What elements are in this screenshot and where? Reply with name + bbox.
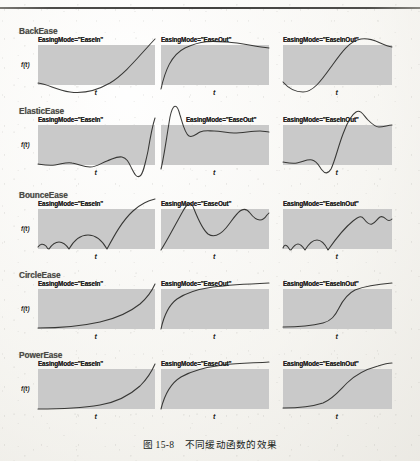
easing-curve-path [38, 364, 155, 409]
easing-curve-svg [283, 125, 392, 165]
easing-curve-svg [283, 209, 392, 249]
easing-group-title: BounceEase [19, 190, 68, 200]
easing-curve-path [161, 283, 269, 329]
x-axis-label: t [213, 88, 215, 97]
easing-plot [283, 209, 392, 249]
easing-curve-path [283, 363, 392, 408]
easing-curve-path [283, 283, 392, 327]
x-axis-label: t [95, 252, 97, 261]
easing-plot [161, 125, 269, 165]
x-axis-label: t [95, 412, 97, 421]
easing-plot [38, 209, 155, 249]
x-axis-label: t [336, 88, 338, 97]
x-axis-label: t [95, 168, 97, 177]
easing-mode-label: EasingMode="EaseIn" [38, 36, 103, 43]
x-axis-label: t [336, 252, 338, 261]
x-axis-label: t [213, 168, 215, 177]
x-axis-label: t [213, 332, 215, 341]
y-axis-label: f(t) [21, 385, 30, 392]
easing-curve-svg [161, 369, 269, 409]
easing-curve-svg [161, 209, 269, 249]
easing-curve-path [161, 41, 269, 89]
easing-mode-label: EasingMode="EaseOut" [161, 200, 231, 207]
easing-plot [283, 289, 392, 329]
easing-curve-svg [283, 369, 392, 409]
easing-mode-label: EasingMode="EaseInOut" [283, 280, 359, 287]
x-axis-label: t [213, 412, 215, 421]
x-axis-label: t [95, 332, 97, 341]
easing-curve-svg [161, 289, 269, 329]
easing-group-title: ElasticEase [19, 106, 64, 116]
easing-plot [38, 125, 155, 165]
y-axis-label: f(t) [21, 61, 30, 68]
easing-plot [38, 369, 155, 409]
easing-plot [38, 45, 155, 85]
easing-plot [283, 125, 392, 165]
easing-curve-path [161, 204, 269, 250]
x-axis-label: t [213, 252, 215, 261]
easing-plot [161, 209, 269, 249]
easing-curve-path [283, 217, 392, 250]
easing-curve-svg [38, 45, 155, 85]
easing-mode-label: EasingMode="EaseInOut" [283, 360, 359, 367]
x-axis-label: t [336, 412, 338, 421]
easing-curve-svg [161, 45, 269, 85]
easing-curve-svg [283, 45, 392, 85]
easing-curve-path [38, 284, 155, 328]
easing-curve-svg [38, 125, 155, 165]
easing-mode-label: EasingMode="EaseIn" [38, 360, 103, 367]
easing-curve-path [38, 39, 155, 93]
easing-mode-label: EasingMode="EaseIn" [38, 280, 103, 287]
x-axis-label: t [95, 88, 97, 97]
easing-curve-path [161, 362, 269, 409]
easing-curve-svg [283, 289, 392, 329]
easing-plot [161, 45, 269, 85]
easing-curve-svg [38, 289, 155, 329]
easing-curve-svg [161, 125, 269, 165]
y-axis-label: f(t) [21, 225, 30, 232]
easing-mode-label: EasingMode="EaseIn" [38, 200, 103, 207]
easing-plot [283, 369, 392, 409]
figure-caption: 图 15-8 不同缓动函数的效果 [0, 437, 420, 451]
easing-group-title: BackEase [19, 26, 57, 36]
easing-plot [161, 289, 269, 329]
easing-mode-label: EasingMode="EaseInOut" [283, 116, 359, 123]
easing-group-title: CircleEase [19, 270, 60, 280]
y-axis-label: f(t) [21, 141, 30, 148]
x-axis-label: t [336, 332, 338, 341]
easing-plot [283, 45, 392, 85]
easing-curve-path [283, 39, 392, 92]
easing-mode-label: EasingMode="EaseOut" [161, 360, 231, 367]
figure-easing-functions: BackEaseEasingMode="EaseIn"f(t)tEasingMo… [0, 0, 420, 461]
x-axis-label: t [336, 168, 338, 177]
easing-curve-svg [38, 209, 155, 249]
easing-plot [161, 369, 269, 409]
easing-group-title: PowerEase [19, 350, 62, 360]
easing-mode-label: EasingMode="EaseInOut" [283, 36, 359, 43]
easing-mode-label: EasingMode="EaseInOut" [283, 200, 359, 207]
easing-curve-svg [38, 369, 155, 409]
y-axis-label: f(t) [21, 305, 30, 312]
easing-mode-label: EasingMode="EaseOut" [186, 116, 256, 123]
easing-plot [38, 289, 155, 329]
easing-mode-label: EasingMode="EaseIn" [38, 116, 103, 123]
